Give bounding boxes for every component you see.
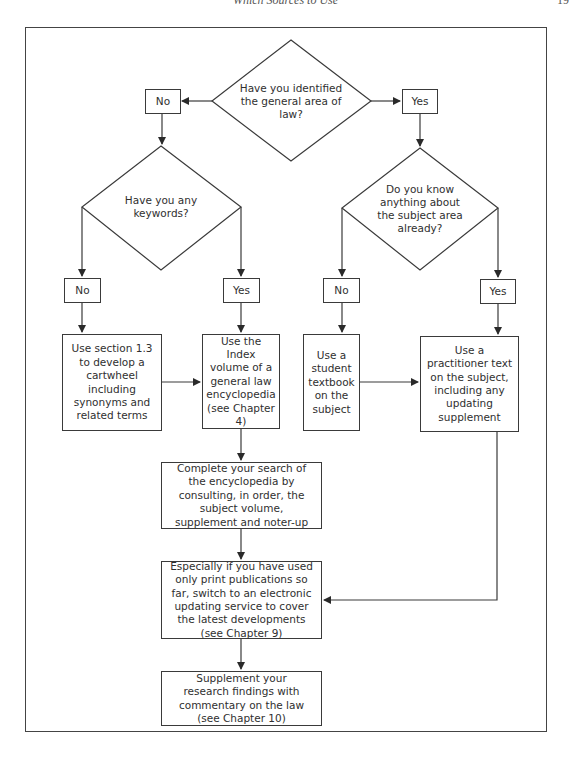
action-practitioner-text: Use a practitioner text on the subject, … [420, 336, 519, 432]
decision-keywords-text: Have you any keywords? [121, 183, 201, 231]
answer-keywords-no: No [64, 278, 101, 303]
decision-general-area-text: Have you identified the general area of … [235, 70, 347, 132]
action-supplement-findings: Supplement your research findings with c… [161, 671, 322, 726]
answer-general-area-yes: Yes [402, 89, 438, 114]
action-complete-search: Complete your search of the encyclopedia… [161, 462, 322, 529]
action-cartwheel: Use section 1.3 to develop a cartwheel i… [62, 334, 162, 431]
action-electronic-updating: Especially if you have used only print p… [161, 561, 322, 639]
action-student-textbook: Use a student textbook on the subject [303, 334, 360, 431]
decision-know-subject-text: Do you know anything about the subject a… [372, 180, 468, 238]
answer-general-area-no: No [145, 89, 181, 114]
answer-know-subject-yes: Yes [480, 279, 516, 304]
answer-know-subject-no: No [323, 278, 360, 303]
answer-keywords-yes: Yes [223, 278, 260, 303]
action-index-volume: Use the Index volume of a general law en… [202, 334, 280, 429]
